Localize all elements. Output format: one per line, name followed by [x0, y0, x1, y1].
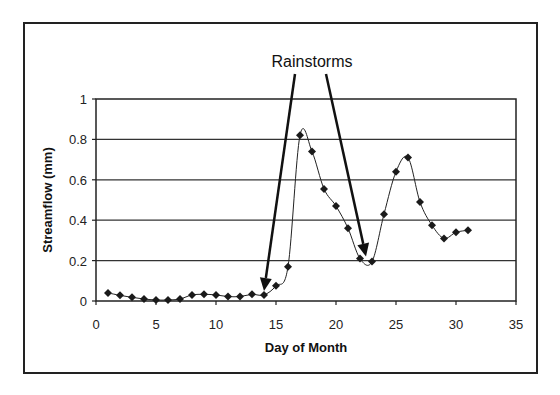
x-axis-title: Day of Month	[265, 340, 347, 355]
x-tick-label: 30	[449, 317, 463, 332]
x-tick-label: 5	[152, 317, 159, 332]
x-tick-label: 35	[509, 317, 523, 332]
x-tick-label: 10	[209, 317, 223, 332]
y-tick-label: 0.8	[69, 132, 87, 147]
rainstorms-annotation: Rainstorms	[272, 53, 353, 70]
y-tick-label: 0.4	[69, 213, 87, 228]
y-tick-label: 0	[80, 294, 87, 309]
y-tick-label: 0.6	[69, 173, 87, 188]
y-tick-label: 1	[80, 92, 87, 107]
x-tick-label: 25	[389, 317, 403, 332]
x-tick-label: 20	[329, 317, 343, 332]
streamflow-chart: 00.20.40.60.81 05101520253035 Day of Mon…	[0, 0, 560, 395]
y-tick-label: 0.2	[69, 254, 87, 269]
x-tick-label: 0	[92, 317, 99, 332]
y-axis-title: Streamflow (mm)	[40, 147, 55, 252]
x-tick-label: 15	[269, 317, 283, 332]
